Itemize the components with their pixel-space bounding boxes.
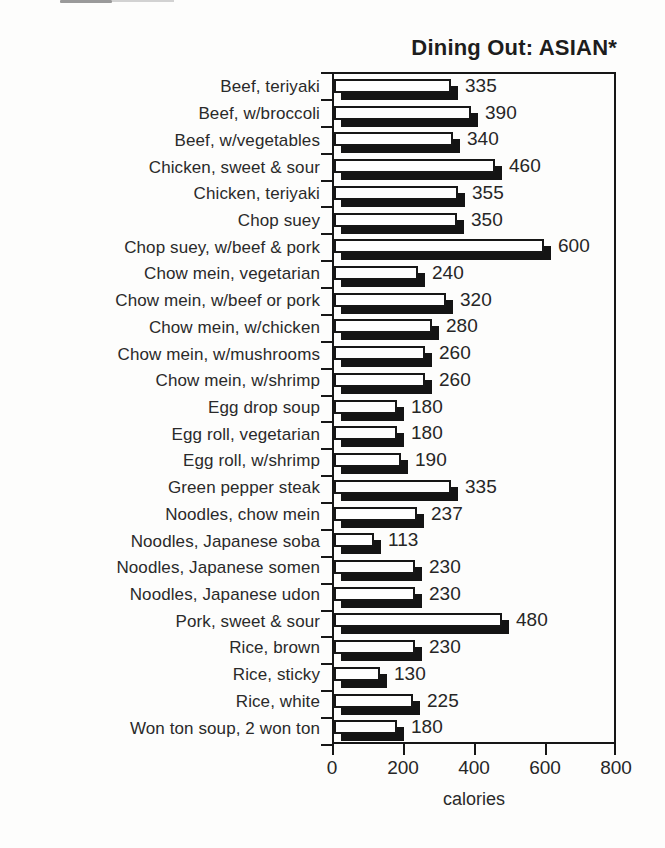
x-tick-label: 800: [600, 757, 632, 779]
value-label: 340: [467, 128, 499, 150]
category-tick: [321, 233, 332, 235]
value-label: 230: [429, 583, 461, 605]
bar-row: 335: [334, 74, 614, 101]
category-axis: Beef, teriyakiBeef, w/broccoliBeef, w/ve…: [0, 74, 326, 742]
category-tick: [321, 287, 332, 289]
x-tick: [614, 744, 616, 755]
category-tick: [321, 314, 332, 316]
bar: [334, 79, 451, 93]
category-tick: [321, 260, 332, 262]
value-label: 190: [415, 449, 447, 471]
value-label: 230: [429, 636, 461, 658]
category-tick: [321, 583, 332, 585]
category-tick: [321, 72, 332, 74]
bar-row: 320: [334, 288, 614, 315]
bar-row: 240: [334, 261, 614, 288]
x-axis-tick-labels: 0200400600800: [332, 757, 616, 781]
bar-row: 190: [334, 448, 614, 475]
category-label: Pork, sweet & sour: [0, 608, 326, 635]
value-label: 237: [431, 503, 463, 525]
category-axis-ticks: [321, 72, 332, 746]
category-label: Chow mein, w/chicken: [0, 314, 326, 341]
category-tick: [321, 636, 332, 638]
bar: [334, 667, 380, 681]
category-tick: [321, 341, 332, 343]
bar: [334, 587, 415, 601]
bar-row: 460: [334, 154, 614, 181]
bar: [334, 613, 502, 627]
category-label: Beef, w/broccoli: [0, 101, 326, 128]
bar-row: 225: [334, 689, 614, 716]
category-label: Rice, brown: [0, 635, 326, 662]
category-label: Noodles, Japanese somen: [0, 555, 326, 582]
bar-row: 180: [334, 715, 614, 742]
bar-row: 230: [334, 635, 614, 662]
bar-row: 230: [334, 582, 614, 609]
value-label: 130: [394, 663, 426, 685]
bar: [334, 694, 413, 708]
value-label: 180: [411, 396, 443, 418]
category-label: Noodles, Japanese udon: [0, 582, 326, 609]
value-label: 320: [460, 289, 492, 311]
chart-page: Dining Out: ASIAN* Beef, teriyakiBeef, w…: [0, 0, 665, 848]
value-label: 180: [411, 422, 443, 444]
value-label: 600: [558, 235, 590, 257]
category-label: Won ton soup, 2 won ton: [0, 715, 326, 742]
scan-artifact-mark: [112, 0, 174, 2]
category-tick: [321, 502, 332, 504]
x-tick: [474, 744, 476, 755]
value-label: 335: [465, 476, 497, 498]
value-label: 180: [411, 716, 443, 738]
category-label: Chow mein, w/shrimp: [0, 368, 326, 395]
bar-row: 335: [334, 475, 614, 502]
chart-title: Dining Out: ASIAN*: [411, 35, 617, 61]
category-tick: [321, 448, 332, 450]
category-label: Chop suey: [0, 208, 326, 235]
category-label: Chow mein, w/mushrooms: [0, 341, 326, 368]
category-tick: [321, 180, 332, 182]
x-axis-title: calories: [332, 789, 616, 810]
bar: [334, 560, 415, 574]
category-label: Green pepper steak: [0, 475, 326, 502]
bar: [334, 239, 544, 253]
bar: [334, 507, 417, 521]
x-tick: [332, 744, 334, 755]
bar: [334, 213, 457, 227]
bar: [334, 319, 432, 333]
category-tick: [321, 126, 332, 128]
bar: [334, 373, 425, 387]
bar: [334, 159, 495, 173]
category-label: Rice, white: [0, 689, 326, 716]
x-tick: [403, 744, 405, 755]
category-label: Chow mein, w/beef or pork: [0, 288, 326, 315]
bar-row: 260: [334, 368, 614, 395]
bar-row: 390: [334, 101, 614, 128]
value-label: 260: [439, 369, 471, 391]
category-label: Chop suey, w/beef & pork: [0, 234, 326, 261]
bar-row: 180: [334, 421, 614, 448]
bar: [334, 533, 374, 547]
x-tick: [545, 744, 547, 755]
bar: [334, 453, 401, 467]
category-tick: [321, 690, 332, 692]
category-tick: [321, 744, 332, 746]
category-label: Chicken, sweet & sour: [0, 154, 326, 181]
bar-row: 480: [334, 608, 614, 635]
value-label: 460: [509, 155, 541, 177]
category-label: Beef, w/vegetables: [0, 127, 326, 154]
value-label: 280: [446, 315, 478, 337]
value-label: 225: [427, 690, 459, 712]
value-label: 240: [432, 262, 464, 284]
bar-row: 355: [334, 181, 614, 208]
category-label: Egg roll, vegetarian: [0, 421, 326, 448]
value-label: 335: [465, 75, 497, 97]
category-tick: [321, 153, 332, 155]
value-label: 390: [485, 102, 517, 124]
scan-artifact-mark: [60, 0, 112, 3]
bar-row: 230: [334, 555, 614, 582]
category-tick: [321, 610, 332, 612]
bar: [334, 346, 425, 360]
category-tick: [321, 663, 332, 665]
x-axis-ticks: [332, 744, 616, 756]
bar: [334, 426, 397, 440]
